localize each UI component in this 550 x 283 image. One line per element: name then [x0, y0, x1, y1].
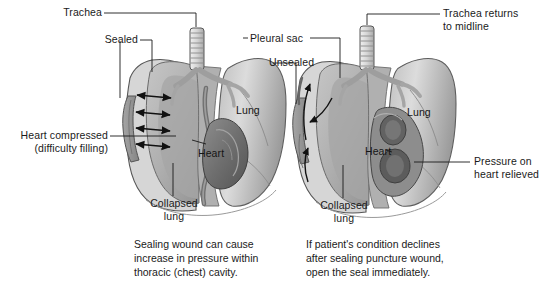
label-pleural-sac: Pleural sac — [250, 32, 303, 45]
label-heart-compressed-line2: (difficulty filling) — [8, 142, 108, 155]
right-trachea — [360, 26, 374, 70]
label-lung-right-panel: Lung — [407, 106, 431, 119]
caption-right-line2: after sealing puncture wound, — [306, 251, 444, 265]
label-trachea-returns-line2: to midline — [443, 20, 489, 33]
label-lung-left-panel: Lung — [236, 104, 260, 117]
label-pressure-relieved-line2: heart relieved — [474, 168, 539, 181]
label-pressure-relieved-line1: Pressure on — [474, 155, 532, 168]
label-collapsed-lung-right-line1: Collapsed — [309, 199, 379, 212]
caption-right-line1: If patient's condition declines — [306, 237, 440, 251]
label-sealed: Sealed — [82, 33, 138, 46]
caption-right-line3: open the seal immediately. — [306, 265, 430, 279]
label-trachea-returns-line1: Trachea returns — [443, 7, 518, 20]
label-trachea: Trachea — [44, 6, 102, 19]
right-heart-chamber-lower-inner — [386, 155, 404, 177]
label-heart-left-panel: Heart — [198, 147, 224, 160]
label-unsealed: Unsealed — [269, 56, 314, 69]
thoracic-injury-figure: Trachea Sealed Heart compressed (difficu… — [0, 0, 550, 283]
leader-trachea-returns — [367, 14, 440, 25]
label-collapsed-lung-left-line1: Collapsed — [139, 197, 209, 210]
caption-left-line3: thoracic (chest) cavity. — [134, 265, 238, 279]
caption-left-line2: increase in pressure within — [134, 251, 258, 265]
label-collapsed-lung-right-line2: lung — [309, 212, 379, 225]
leader-trachea — [104, 13, 196, 27]
right-heart-chamber-upper-inner — [385, 120, 401, 140]
left-thorax-anatomy — [123, 28, 286, 215]
label-collapsed-lung-left-line2: lung — [139, 210, 209, 223]
label-heart-right-panel: Heart — [365, 145, 391, 158]
label-heart-compressed-line1: Heart compressed — [8, 129, 108, 142]
caption-left-line1: Sealing wound can cause — [134, 237, 254, 251]
left-trachea — [190, 28, 204, 70]
right-thorax-anatomy — [293, 26, 456, 217]
